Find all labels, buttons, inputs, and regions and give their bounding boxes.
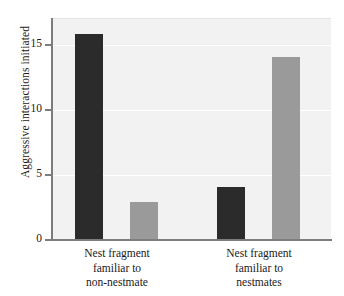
y-tick-label-0: 0 [22, 232, 42, 244]
plot-area [52, 18, 331, 240]
tick-mark-10 [45, 109, 51, 111]
tick-mark-0 [45, 239, 51, 241]
bar-light-nonnestmate [130, 202, 158, 240]
bar-dark-nonnestmate [75, 34, 103, 240]
y-tick-label-5: 5 [22, 167, 42, 179]
y-axis-line [51, 18, 53, 240]
gridline-top [52, 18, 331, 19]
tick-mark-5 [45, 174, 51, 176]
x-axis-line [51, 239, 332, 241]
x-category-label-left: Nest fragment familiar to non-nestmate [62, 246, 172, 290]
y-tick-label-10: 10 [22, 102, 42, 114]
x-category-label-right: Nest fragment familiar to nestmates [204, 246, 314, 290]
bar-dark-nestmate [217, 187, 245, 240]
chart-figure: Aggressive interactions initiated 0 5 10… [0, 0, 344, 296]
y-tick-label-15: 15 [22, 37, 42, 49]
tick-mark-15 [45, 44, 51, 46]
bar-light-nestmate [272, 57, 300, 240]
